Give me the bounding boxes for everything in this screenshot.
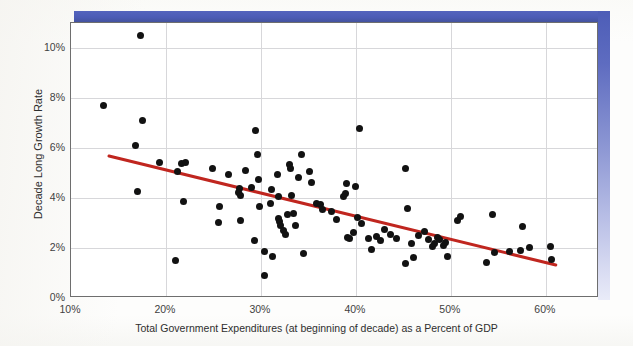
- scatter-point: [254, 151, 261, 158]
- scatter-point: [267, 200, 274, 207]
- scatter-point: [274, 171, 281, 178]
- scatter-point: [248, 184, 255, 191]
- scatter-point: [300, 250, 307, 257]
- scatter-point: [519, 223, 526, 230]
- scatter-point: [298, 151, 305, 158]
- scatter-point: [242, 167, 249, 174]
- scatter-point: [365, 235, 372, 242]
- scatter-point: [180, 198, 187, 205]
- scatter-point: [100, 102, 107, 109]
- scatter-point: [251, 237, 258, 244]
- scatter-point: [328, 208, 335, 215]
- x-tick-label: 30%: [238, 303, 282, 315]
- scatter-point: [269, 253, 276, 260]
- scatter-point: [517, 247, 524, 254]
- chart-figure: 0%2%4%6%8%10% 10%20%30%40%50%60% Decade …: [0, 0, 633, 346]
- scatter-point: [457, 213, 464, 220]
- scatter-point: [404, 205, 411, 212]
- scatter-point: [290, 210, 297, 217]
- scatter-point: [548, 256, 555, 263]
- scatter-point: [491, 249, 498, 256]
- scatter-point: [350, 229, 357, 236]
- scatter-point: [252, 127, 259, 134]
- scatter-point: [137, 32, 144, 39]
- scatter-point: [368, 246, 375, 253]
- scatter-point: [444, 253, 451, 260]
- scatter-point: [216, 203, 223, 210]
- scatter-point: [489, 211, 496, 218]
- decorative-right-band: [598, 11, 610, 300]
- scatter-point: [402, 165, 409, 172]
- scatter-point: [134, 188, 141, 195]
- x-tick-label: 20%: [143, 303, 187, 315]
- scatter-point: [132, 142, 139, 149]
- scatter-point: [506, 248, 513, 255]
- scatter-point: [174, 168, 181, 175]
- scatter-point: [287, 165, 294, 172]
- scatter-point: [268, 186, 275, 193]
- scatter-point: [306, 168, 313, 175]
- scatter-point: [343, 180, 350, 187]
- y-tick-label: 0%: [31, 291, 65, 303]
- scatter-point: [408, 240, 415, 247]
- scatter-point: [442, 239, 449, 246]
- scatter-point: [288, 192, 295, 199]
- scatter-point: [237, 192, 244, 199]
- scatter-point: [346, 235, 353, 242]
- scatter-point: [215, 219, 222, 226]
- x-tick-label: 60%: [523, 303, 567, 315]
- decorative-top-band: [74, 11, 598, 22]
- scatter-point: [483, 259, 490, 266]
- x-tick-label: 10%: [48, 303, 92, 315]
- scatter-point: [308, 179, 315, 186]
- scatter-point: [292, 222, 299, 229]
- scatter-point: [352, 183, 359, 190]
- plot-area: [70, 22, 598, 297]
- x-tick-label: 40%: [333, 303, 377, 315]
- scatter-point: [377, 237, 384, 244]
- scatter-point: [275, 193, 282, 200]
- scatter-point: [255, 176, 262, 183]
- scatter-point: [282, 231, 289, 238]
- scatter-point: [342, 190, 349, 197]
- x-axis-title: Total Government Expenditures (at beginn…: [0, 322, 633, 334]
- scatter-point: [209, 165, 216, 172]
- x-tick-label: 50%: [428, 303, 472, 315]
- scatter-point: [295, 174, 302, 181]
- scatter-point: [421, 228, 428, 235]
- scatter-point: [172, 257, 179, 264]
- plot-inner: [71, 23, 597, 296]
- scatter-point: [156, 159, 163, 166]
- y-axis-title: Decade Long Growth Rate: [32, 44, 44, 264]
- scatter-point: [402, 260, 409, 267]
- scatter-point: [393, 235, 400, 242]
- trendline: [71, 23, 597, 296]
- scatter-point: [139, 117, 146, 124]
- scatter-point: [547, 243, 554, 250]
- scatter-point: [225, 171, 232, 178]
